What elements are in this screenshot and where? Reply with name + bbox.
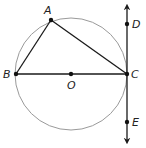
point-b bbox=[14, 72, 18, 76]
point-d bbox=[125, 22, 129, 26]
label-b: B bbox=[3, 68, 11, 81]
point-e bbox=[125, 120, 129, 124]
label-o: O bbox=[67, 79, 76, 92]
point-o bbox=[69, 72, 73, 76]
geometry-diagram: ABOCDE bbox=[0, 0, 146, 148]
points bbox=[14, 18, 129, 124]
label-c: C bbox=[131, 68, 139, 81]
label-a: A bbox=[43, 4, 52, 17]
point-c bbox=[125, 72, 129, 76]
segment-ab bbox=[16, 20, 51, 74]
point-a bbox=[49, 18, 53, 22]
triangle-abc bbox=[16, 20, 127, 74]
label-d: D bbox=[132, 18, 140, 31]
labels: ABOCDE bbox=[3, 4, 140, 129]
segment-ac bbox=[51, 20, 127, 74]
label-e: E bbox=[132, 116, 139, 129]
